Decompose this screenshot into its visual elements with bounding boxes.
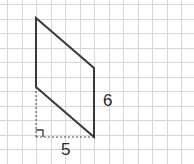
parallelogram-outline [36,18,94,137]
right-angle-marker-icon [36,130,43,137]
geometry-figure-canvas: 6 5 [0,0,194,164]
side-length-label-right: 6 [103,92,112,109]
base-length-label: 5 [61,141,70,158]
parallelogram-shape-layer [0,0,194,164]
